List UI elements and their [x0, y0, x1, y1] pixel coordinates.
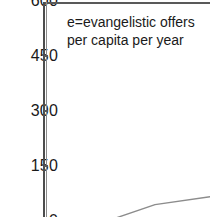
chart-crop: 600 450 300 150 0 e=evangelistic offers … [0, 0, 210, 217]
y-axis-tick-mark-450 [44, 55, 48, 57]
series-annotation-line-1: e=evangelistic offers [67, 13, 195, 31]
y-axis-tick-label-450: 450 [14, 48, 58, 64]
y-axis-tick-label-300: 300 [14, 103, 58, 119]
series-line-e [110, 197, 210, 217]
y-axis-tick-label-150: 150 [14, 158, 58, 174]
y-axis-tick-label-0: 0 [14, 213, 58, 217]
y-axis-tick-mark-150 [44, 165, 48, 167]
series-annotation-line-2: per capita per year [67, 31, 195, 49]
plot-frame-top-border [43, 2, 210, 4]
series-annotation-note: e=evangelistic offers per capita per yea… [67, 13, 195, 49]
y-axis-tick-mark-300 [44, 110, 48, 112]
